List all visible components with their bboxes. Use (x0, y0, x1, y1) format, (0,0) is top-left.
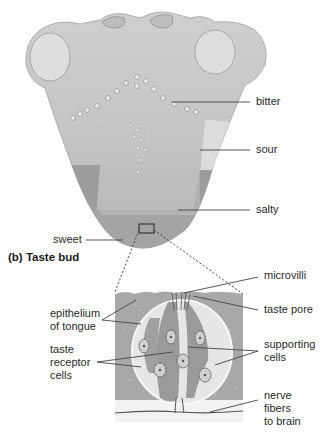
label-salty: salty (256, 203, 279, 216)
label-taste-receptor-cells: taste receptor cells (50, 343, 90, 382)
label-epithelium: epithelium of tongue (50, 307, 100, 333)
label-bitter: bitter (256, 95, 280, 108)
label-sour: sour (256, 143, 277, 156)
label-sweet: sweet (53, 233, 82, 246)
taste-diagram-art (0, 0, 323, 435)
label-supporting-cells: supporting cells (264, 338, 315, 364)
tongue-illustration (26, 12, 270, 260)
taste-bud-title: (b) Taste bud (8, 251, 79, 263)
label-taste-pore: taste pore (264, 303, 313, 316)
label-microvilli: microvilli (264, 269, 306, 282)
label-nerve-fibers: nerve fibers to brain (264, 389, 301, 428)
